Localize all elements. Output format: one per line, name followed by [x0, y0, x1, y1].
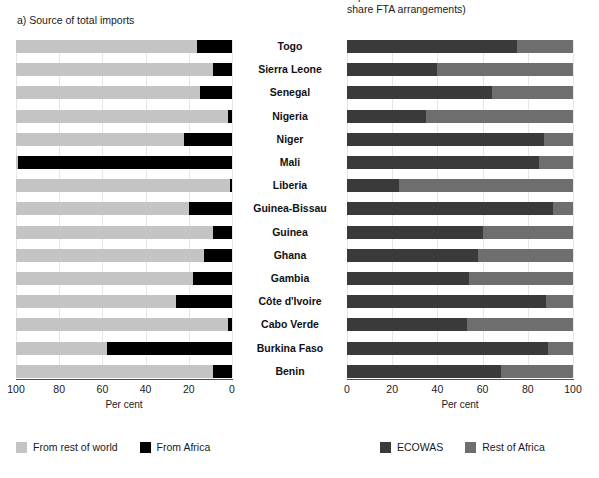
- bar-segment: [347, 295, 546, 308]
- bar-segment: [16, 295, 176, 308]
- left-panel-title: a) Source of total imports: [17, 14, 134, 27]
- axis-tick-label: 80: [53, 383, 65, 395]
- bar-segment: [16, 133, 184, 146]
- right-chart-x-axis-title: Per cent: [347, 399, 573, 410]
- category-label-column: TogoSierra LeoneSenegalNigeriaNigerMaliL…: [236, 40, 344, 378]
- right-chart-legend: ECOWASRest of Africa: [380, 441, 590, 453]
- category-label: Sierra Leone: [236, 63, 344, 76]
- bar-segment: [193, 272, 232, 285]
- left-chart-bars: [16, 40, 232, 378]
- bar-row: [347, 202, 573, 215]
- legend-ecowas[interactable]: ECOWAS: [380, 441, 443, 453]
- bar-row: [16, 63, 232, 76]
- right-chart-plot-area: [347, 40, 573, 378]
- bar-row: [16, 295, 232, 308]
- bar-row: [347, 40, 573, 53]
- bar-row: [16, 318, 232, 331]
- figure-container: a) Source of total imports imports from …: [0, 0, 599, 478]
- bar-row: [16, 272, 232, 285]
- category-label: Guinea-Bissau: [236, 202, 344, 215]
- legend-label: From rest of world: [33, 441, 118, 453]
- bar-segment: [483, 226, 573, 239]
- category-label: Côte d'Ivoire: [236, 295, 344, 308]
- category-label: Nigeria: [236, 110, 344, 123]
- bar-segment: [16, 365, 213, 378]
- bar-row: [347, 63, 573, 76]
- category-label: Liberia: [236, 179, 344, 192]
- category-label: Ghana: [236, 249, 344, 262]
- right-chart-bars: [347, 40, 573, 378]
- bar-segment: [347, 110, 426, 123]
- bar-row: [347, 342, 573, 355]
- legend-rest-of-africa[interactable]: Rest of Africa: [465, 441, 544, 453]
- axis-tick-label: 80: [522, 383, 534, 395]
- bar-segment: [16, 40, 197, 53]
- axis-tick-label: 60: [97, 383, 109, 395]
- bar-segment: [16, 342, 107, 355]
- legend-label: ECOWAS: [397, 441, 443, 453]
- category-label: Niger: [236, 133, 344, 146]
- bar-row: [347, 365, 573, 378]
- bar-segment: [16, 202, 189, 215]
- legend-from-rest-of-world[interactable]: From rest of world: [16, 441, 118, 453]
- bar-segment: [539, 156, 573, 169]
- legend-swatch-icon: [465, 442, 476, 453]
- gridline: [232, 40, 233, 378]
- bar-segment: [16, 249, 204, 262]
- bar-segment: [197, 40, 232, 53]
- axis-tick-label: 0: [229, 383, 235, 395]
- right-chart-tick-labels: 020406080100: [347, 383, 573, 399]
- bar-row: [347, 156, 573, 169]
- axis-tick-label: 100: [564, 383, 582, 395]
- legend-label: From Africa: [157, 441, 211, 453]
- bar-segment: [469, 272, 573, 285]
- bar-segment: [467, 318, 573, 331]
- bar-row: [16, 110, 232, 123]
- axis-tick-label: 20: [183, 383, 195, 395]
- axis-tick-label: 40: [432, 383, 444, 395]
- bar-segment: [553, 202, 573, 215]
- bar-segment: [347, 133, 544, 146]
- right-panel-title: imports from countries with which states…: [347, 0, 595, 16]
- bar-segment: [16, 318, 228, 331]
- bar-segment: [16, 226, 213, 239]
- category-label: Cabo Verde: [236, 318, 344, 331]
- bar-segment: [16, 86, 200, 99]
- bar-segment: [347, 86, 492, 99]
- bar-segment: [16, 110, 228, 123]
- bar-segment: [184, 133, 232, 146]
- bar-segment: [544, 133, 573, 146]
- bar-segment: [501, 365, 573, 378]
- bar-segment: [213, 365, 232, 378]
- bar-segment: [228, 110, 232, 123]
- category-label: Mali: [236, 156, 344, 169]
- left-chart-legend: From rest of worldFrom Africa: [16, 441, 246, 453]
- bar-segment: [347, 342, 548, 355]
- left-chart-tick-labels: 100806040200: [16, 383, 232, 399]
- bar-row: [16, 156, 232, 169]
- axis-tick-label: 60: [477, 383, 489, 395]
- legend-swatch-icon: [16, 442, 27, 453]
- bar-row: [347, 86, 573, 99]
- left-chart-x-axis-title: Per cent: [16, 399, 232, 410]
- axis-tick-label: 100: [7, 383, 25, 395]
- category-label: Togo: [236, 40, 344, 53]
- bar-segment: [492, 86, 573, 99]
- bar-segment: [204, 249, 232, 262]
- bar-segment: [213, 63, 232, 76]
- category-label: Guinea: [236, 226, 344, 239]
- bar-row: [16, 86, 232, 99]
- legend-swatch-icon: [380, 442, 391, 453]
- category-label: Burkina Faso: [236, 342, 344, 355]
- bar-segment: [347, 179, 399, 192]
- bar-segment: [548, 342, 573, 355]
- bar-segment: [347, 226, 483, 239]
- right-chart-axis-line: [347, 379, 574, 380]
- bar-row: [347, 318, 573, 331]
- bar-row: [347, 110, 573, 123]
- legend-from-africa[interactable]: From Africa: [140, 441, 211, 453]
- bar-row: [16, 179, 232, 192]
- bar-segment: [189, 202, 232, 215]
- bar-segment: [107, 342, 232, 355]
- bar-segment: [176, 295, 232, 308]
